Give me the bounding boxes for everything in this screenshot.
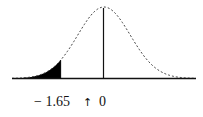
mean-label: 0 (99, 94, 106, 110)
critical-value-label: − 1.65 (34, 94, 70, 110)
arrow-up-icon: ↑ (83, 95, 92, 111)
